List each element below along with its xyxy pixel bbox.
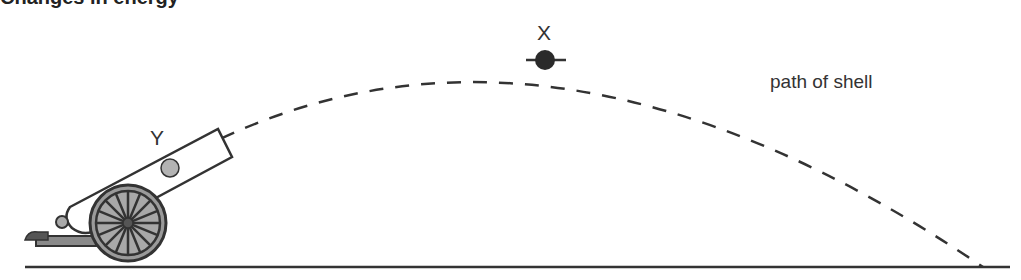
label-path-of-shell: path of shell [770, 71, 872, 93]
shell-x [535, 50, 555, 70]
label-y: Y [150, 126, 164, 150]
cannon-knob [56, 216, 68, 228]
cannon [25, 129, 232, 261]
shell-trajectory [198, 82, 983, 267]
label-x: X [537, 21, 551, 45]
cannon-wheel [90, 185, 166, 261]
shell-y [161, 159, 179, 177]
cannon-trail-hook [25, 232, 48, 240]
